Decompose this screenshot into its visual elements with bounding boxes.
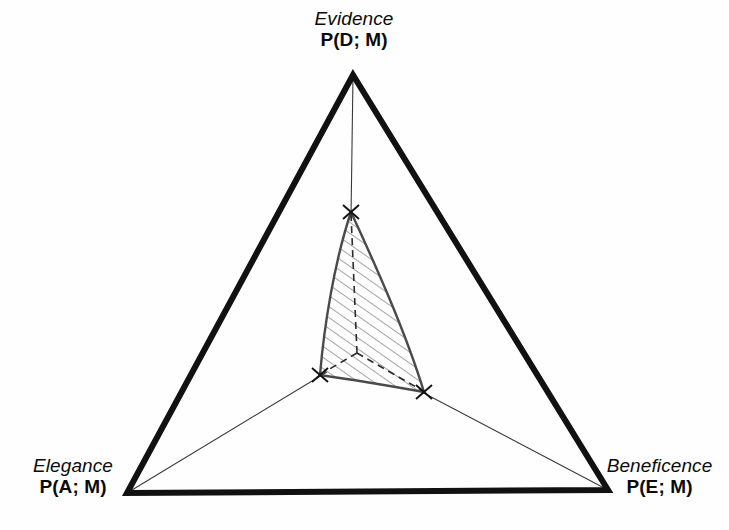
vertex-label-elegance: Elegance P(A; M) (8, 455, 138, 498)
evidence-name: Evidence (274, 8, 434, 29)
connector-evidence (351, 75, 353, 218)
ternary-diagram: Evidence P(D; M) Elegance P(A; M) Benefi… (0, 0, 729, 530)
vertex-label-evidence: Evidence P(D; M) (274, 8, 434, 51)
beneficence-expression: P(E; M) (592, 476, 727, 497)
vertex-label-beneficence: Beneficence P(E; M) (592, 455, 727, 498)
beneficence-name: Beneficence (592, 455, 727, 476)
elegance-name: Elegance (8, 455, 138, 476)
diagram-canvas (0, 0, 729, 530)
evidence-expression: P(D; M) (274, 29, 434, 50)
elegance-expression: P(A; M) (8, 476, 138, 497)
